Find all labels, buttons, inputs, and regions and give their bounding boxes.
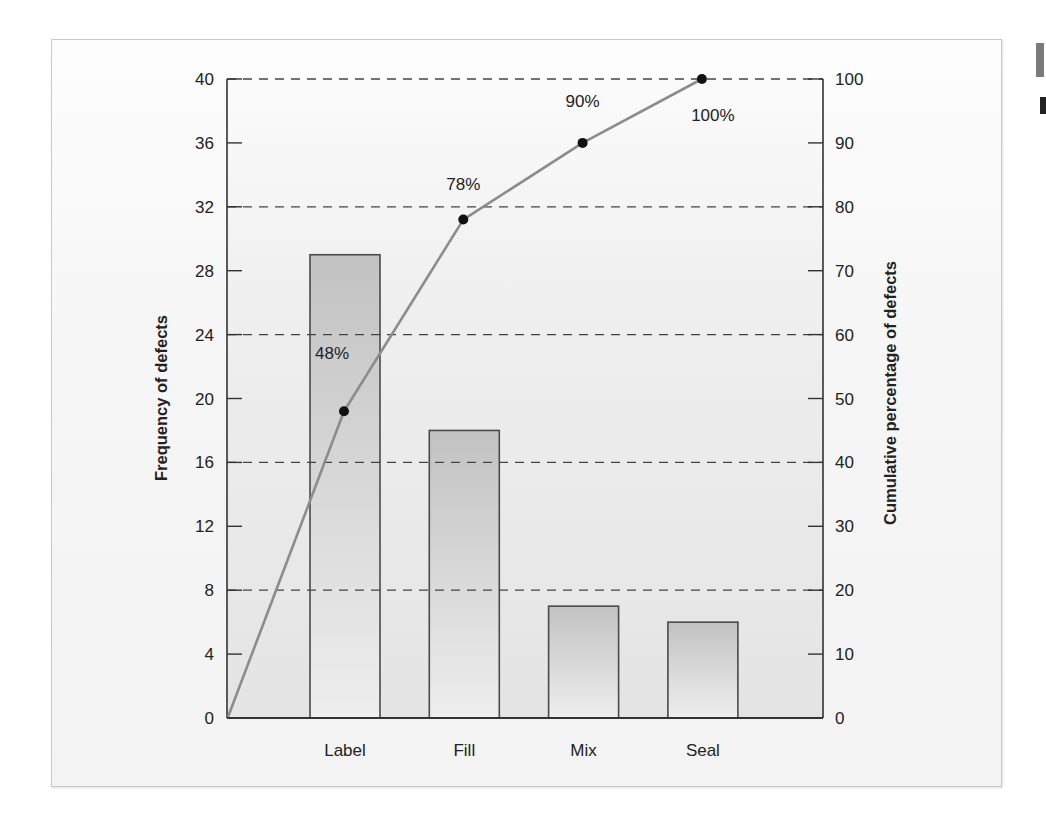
bar-seal bbox=[668, 622, 738, 718]
right-tick-label: 80 bbox=[835, 198, 854, 217]
left-tick-label: 16 bbox=[195, 453, 214, 472]
left-tick-label: 40 bbox=[195, 70, 214, 89]
bar-mix bbox=[549, 606, 619, 718]
left-tick-label: 12 bbox=[195, 517, 214, 536]
cumulative-point-label: 90% bbox=[566, 92, 600, 111]
category-labels: LabelFillMixSeal bbox=[324, 741, 720, 760]
left-axis-title: Frequency of defects bbox=[152, 315, 170, 481]
cumulative-point-marker bbox=[458, 215, 468, 225]
edge-mark-gray bbox=[1036, 43, 1044, 77]
right-tick-label: 70 bbox=[835, 262, 854, 281]
category-label-fill: Fill bbox=[453, 741, 475, 760]
bar-fill bbox=[429, 430, 499, 718]
category-label-seal: Seal bbox=[686, 741, 720, 760]
left-tick-label: 36 bbox=[195, 134, 214, 153]
pareto-chart: 0481216202428323640 01020304050607080901… bbox=[0, 0, 1046, 819]
cumulative-point-label: 48% bbox=[315, 344, 349, 363]
edge-mark-black bbox=[1040, 97, 1046, 114]
left-tick-label: 32 bbox=[195, 198, 214, 217]
cumulative-point-marker bbox=[578, 138, 588, 148]
right-tick-label: 60 bbox=[835, 326, 854, 345]
left-tick-label: 24 bbox=[195, 326, 214, 345]
left-tick-label: 20 bbox=[195, 390, 214, 409]
left-tick-label: 28 bbox=[195, 262, 214, 281]
left-tick-label: 4 bbox=[205, 645, 214, 664]
cumulative-point-label: 78% bbox=[446, 175, 480, 194]
right-tick-label: 30 bbox=[835, 517, 854, 536]
left-tick-label: 0 bbox=[205, 709, 214, 728]
right-tick-label: 40 bbox=[835, 453, 854, 472]
category-label-label: Label bbox=[324, 741, 366, 760]
cumulative-point-marker bbox=[339, 406, 349, 416]
left-tick-label: 8 bbox=[205, 581, 214, 600]
right-tick-label: 20 bbox=[835, 581, 854, 600]
bar-label bbox=[310, 255, 380, 718]
right-tick-label: 50 bbox=[835, 390, 854, 409]
right-tick-label: 10 bbox=[835, 645, 854, 664]
right-tick-label: 90 bbox=[835, 134, 854, 153]
category-label-mix: Mix bbox=[570, 741, 597, 760]
right-axis-title: Cumulative percentage of defects bbox=[881, 261, 899, 525]
cumulative-point-marker bbox=[697, 74, 707, 84]
right-tick-label: 0 bbox=[835, 709, 844, 728]
cumulative-point-label: 100% bbox=[691, 106, 734, 125]
right-tick-label: 100 bbox=[835, 70, 863, 89]
